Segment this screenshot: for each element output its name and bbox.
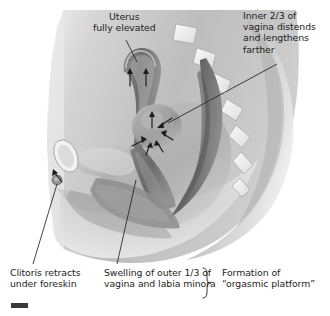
label-formation-orgasmic-platform: Formation of “orgasmic platform”: [222, 267, 315, 289]
label-uterus-fully-elevated: Uterus fully elevated: [93, 11, 156, 33]
label-swelling-outer-vagina: Swelling of outer 1/3 of vagina and labi…: [104, 267, 216, 289]
label-clitoris-retracts: Clitoris retracts under foreskin: [10, 267, 80, 289]
corner-marker: [11, 303, 28, 308]
label-inner-vagina-distends: Inner 2/3 of vagina distends and lengthe…: [243, 10, 316, 55]
